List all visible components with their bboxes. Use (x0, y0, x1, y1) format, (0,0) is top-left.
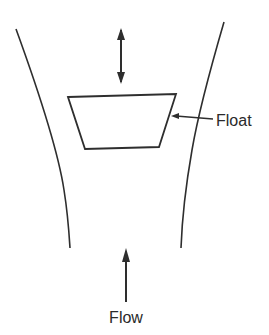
flow-label: Flow (109, 309, 143, 326)
tube-right-wall (181, 22, 224, 248)
float-label: Float (216, 112, 252, 129)
flow-arrow-icon (122, 248, 130, 302)
float-shape (68, 94, 176, 149)
float-leader-arrow-icon (171, 113, 213, 119)
motion-arrow-icon (117, 28, 125, 84)
rotameter-diagram: Float Flow (0, 0, 269, 335)
tube-left-wall (16, 29, 70, 248)
